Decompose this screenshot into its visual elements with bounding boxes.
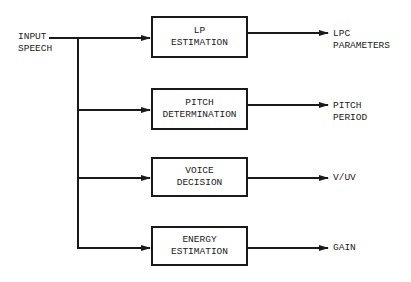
block-label-line1: PITCH: [185, 97, 214, 109]
block-label-line2: ESTIMATION: [171, 37, 228, 49]
output-label-line2: PERIOD: [333, 112, 367, 124]
block-label-line2: DECISION: [177, 177, 223, 189]
block-label-line1: ENERGY: [182, 234, 216, 246]
block-label-line2: ESTIMATION: [171, 246, 228, 258]
block-pitch-determination: PITCH DETERMINATION: [151, 88, 248, 130]
block-lp-estimation: LP ESTIMATION: [151, 16, 248, 58]
output-label-line1: V/UV: [333, 172, 356, 184]
output-label-vuv: V/UV: [333, 172, 356, 184]
output-label-gain: GAIN: [333, 242, 356, 254]
block-energy-estimation: ENERGY ESTIMATION: [151, 226, 248, 266]
input-label-line2: SPEECH: [18, 43, 52, 55]
block-label-line2: DETERMINATION: [162, 109, 236, 121]
block-label-line1: LP: [194, 25, 205, 37]
block-voice-decision: VOICE DECISION: [151, 157, 248, 197]
input-label-line1: INPUT: [18, 31, 52, 43]
output-label-lpc: LPC PARAMETERS: [333, 28, 390, 52]
output-label-line1: GAIN: [333, 242, 356, 254]
output-label-line1: LPC: [333, 28, 390, 40]
output-label-pitch: PITCH PERIOD: [333, 100, 367, 124]
block-label-line1: VOICE: [185, 165, 214, 177]
output-label-line1: PITCH: [333, 100, 367, 112]
input-label: INPUT SPEECH: [18, 31, 52, 55]
output-label-line2: PARAMETERS: [333, 40, 390, 52]
